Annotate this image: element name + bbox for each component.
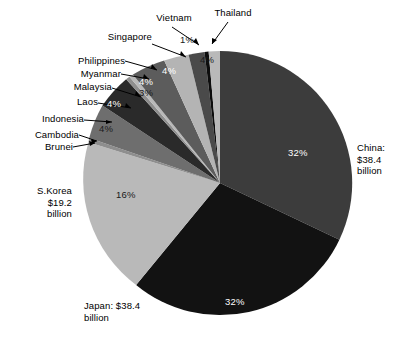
slice-percent-cambodia: 4% [99,124,113,134]
slice-percent-myanmar: 4% [139,77,153,87]
slice-percent-skorea: 16% [116,190,136,200]
slice-percent-china: 32% [288,148,308,158]
slice-percent-philippines: 3% [139,88,153,98]
callout-label-thailand: Thailand [205,7,261,19]
value-callout-japan-line1: Japan: $38.4 [84,300,194,312]
slice-percent-indonesia: 4% [107,99,121,109]
callout-label-indonesia: Indonesia [8,113,84,125]
value-callout-skorea: S.Korea $19.2 billion [20,185,72,220]
callout-label-cambodia: Cambodia [4,129,79,141]
pie-slices [83,51,352,315]
slice-percent-thailand: 4% [200,55,214,65]
value-callout-china-line3: billion [357,165,407,177]
callout-label-malaysia: Malaysia [30,81,112,93]
chart-canvas: Vietnam Thailand Singapore Philippines M… [0,0,407,340]
value-callout-skorea-line3: billion [20,208,72,220]
value-callout-china-line2: $38.4 [357,154,407,166]
pie-chart [0,0,407,340]
value-callout-japan: Japan: $38.4 billion [84,300,194,323]
value-callout-skorea-line1: S.Korea [20,185,72,197]
value-callout-japan-line2: billion [84,312,194,324]
callout-label-singapore: Singapore [60,31,152,43]
callout-label-laos: Laos [30,96,98,108]
value-callout-china: China: $38.4 billion [357,142,407,177]
callout-label-brunei: Brunei [8,141,73,153]
callout-label-myanmar: Myanmar [35,68,121,80]
slice-percent-singapore: 4% [162,66,176,76]
slice-percent-vietnam: 1% [180,35,194,45]
callout-label-vietnam: Vietnam [148,12,200,24]
value-callout-skorea-line2: $19.2 [20,197,72,209]
value-callout-china-line1: China: [357,142,407,154]
slice-percent-japan: 32% [225,297,245,307]
callout-label-philippines: Philippines [35,55,125,67]
